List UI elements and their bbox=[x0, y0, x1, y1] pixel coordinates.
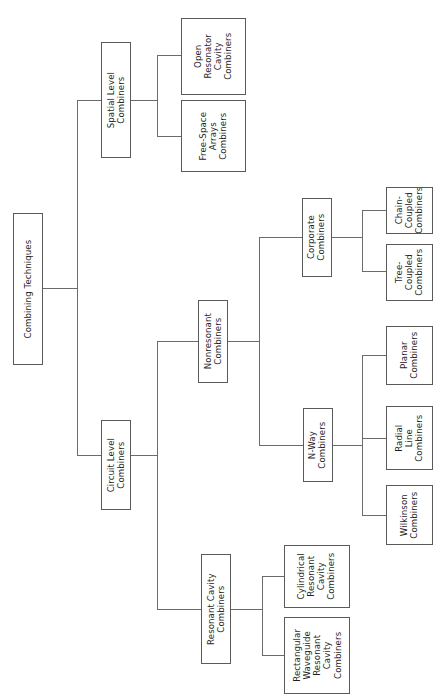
node-label: Chain- Coupled Combiners bbox=[394, 187, 424, 234]
node-label: Wilkinson Combiners bbox=[399, 491, 419, 538]
node-label: Rectangular Waveguide Resonant Cavity Co… bbox=[292, 629, 343, 682]
connector-nonresonant-to-n-way bbox=[259, 445, 304, 446]
connector-spatial-bus bbox=[157, 55, 158, 137]
tree-diagram: Combining Techniques Spatial Level Combi… bbox=[0, 0, 442, 699]
node-label: Spatial Level Combiners bbox=[106, 72, 126, 128]
node-radial-line-combiners[interactable]: Radial Line Combiners bbox=[386, 406, 433, 470]
node-label: Tree- Coupled Combiners bbox=[394, 249, 424, 296]
node-label: Planar Combiners bbox=[399, 332, 419, 379]
node-wilkinson-combiners[interactable]: Wilkinson Combiners bbox=[386, 485, 433, 545]
connector-spatial-stub bbox=[131, 100, 158, 101]
node-free-space-arrays-combiners[interactable]: Free-Space Arrays Combiners bbox=[181, 100, 246, 172]
connector-spatial-to-open-resonator bbox=[157, 55, 182, 56]
node-spatial-level-combiners[interactable]: Spatial Level Combiners bbox=[101, 42, 131, 158]
node-label: Free-Space Arrays Combiners bbox=[198, 112, 228, 161]
node-chain-coupled-combiners[interactable]: Chain- Coupled Combiners bbox=[386, 187, 433, 234]
connector-nway-stub bbox=[333, 445, 363, 446]
node-label: Radial Line Combiners bbox=[394, 414, 424, 461]
node-combining-techniques[interactable]: Combining Techniques bbox=[13, 213, 43, 365]
node-corporate-combiners[interactable]: Corporate Combiners bbox=[302, 198, 332, 277]
connector-nonresonant-to-corporate bbox=[259, 237, 303, 238]
node-resonant-cavity-combiners[interactable]: Resonant Cavity Combiners bbox=[201, 554, 231, 664]
connector-root-to-spatial bbox=[77, 100, 102, 101]
node-label: Cylindrical Resonant Cavity Combiners bbox=[297, 553, 338, 600]
connector-spatial-to-free-space bbox=[157, 136, 182, 137]
node-label: Circuit Level Combiners bbox=[106, 438, 126, 492]
node-tree-coupled-combiners[interactable]: Tree- Coupled Combiners bbox=[386, 244, 433, 301]
node-rectangular-waveguide-resonant-cavity-combiners[interactable]: Rectangular Waveguide Resonant Cavity Co… bbox=[284, 617, 350, 694]
node-circuit-level-combiners[interactable]: Circuit Level Combiners bbox=[101, 420, 131, 510]
connector-resonant-to-rectangular bbox=[262, 655, 285, 656]
node-planar-combiners[interactable]: Planar Combiners bbox=[386, 326, 433, 385]
connector-resonant-stub bbox=[231, 609, 263, 610]
node-label: Corporate Combiners bbox=[307, 214, 327, 261]
connector-root-to-circuit bbox=[77, 455, 102, 456]
node-n-way-combiners[interactable]: N-Way Combiners bbox=[303, 408, 333, 482]
connector-root-bus bbox=[77, 100, 78, 456]
node-cylindrical-resonant-cavity-combiners[interactable]: Cylindrical Resonant Cavity Combiners bbox=[284, 545, 350, 608]
node-label: Open Resonator Cavity Combiners bbox=[193, 33, 234, 80]
connector-resonant-to-cylindrical bbox=[262, 576, 285, 577]
connector-circuit-to-nonresonant bbox=[157, 341, 199, 342]
connector-circuit-to-resonant-cavity bbox=[157, 609, 202, 610]
connector-circuit-stub bbox=[131, 455, 158, 456]
connector-corporate-to-tree bbox=[362, 271, 387, 272]
connector-nonresonant-bus bbox=[259, 237, 260, 445]
connector-root-stub bbox=[42, 288, 78, 289]
connector-nway-to-radial bbox=[362, 438, 387, 439]
connector-circuit-bus bbox=[157, 341, 158, 609]
connector-nonresonant-stub bbox=[228, 341, 260, 342]
node-label: N-Way Combiners bbox=[308, 421, 328, 468]
node-open-resonator-cavity-combiners[interactable]: Open Resonator Cavity Combiners bbox=[181, 18, 246, 95]
connector-resonant-bus bbox=[262, 576, 263, 656]
connector-nway-to-wilkinson bbox=[362, 515, 387, 516]
connector-corporate-stub bbox=[332, 237, 363, 238]
connector-nway-bus bbox=[362, 355, 363, 516]
connector-corporate-to-chain bbox=[362, 210, 387, 211]
node-label: Resonant Cavity Combiners bbox=[206, 573, 226, 645]
connector-corporate-bus bbox=[362, 210, 363, 272]
connector-nway-to-planar bbox=[362, 355, 387, 356]
node-nonresonant-combiners[interactable]: Nonresonant Combiners bbox=[198, 300, 228, 383]
node-label: Nonresonant Combiners bbox=[203, 313, 223, 369]
node-label: Combining Techniques bbox=[23, 240, 33, 339]
